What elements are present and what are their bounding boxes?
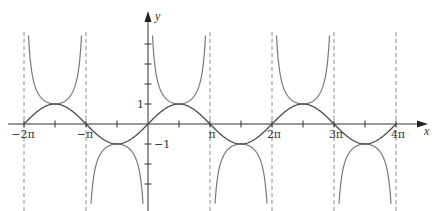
x-tick-label: −2π bbox=[11, 128, 34, 141]
y-axis-arrow-icon bbox=[145, 11, 152, 22]
y-axis-label: y bbox=[154, 9, 161, 23]
y-tick-label: −1 bbox=[154, 138, 170, 151]
x-tick-label: 2π bbox=[267, 128, 281, 141]
x-tick-label: π bbox=[208, 128, 215, 141]
x-tick-label: 4π bbox=[391, 128, 405, 141]
y-tick-label: 1 bbox=[137, 98, 144, 111]
x-tick-label: −π bbox=[77, 128, 93, 141]
sin-csc-plot: −2π−ππ2π3π4π1−1 x y bbox=[0, 0, 436, 211]
x-tick-label: 3π bbox=[329, 128, 343, 141]
x-axis-label: x bbox=[423, 124, 430, 138]
